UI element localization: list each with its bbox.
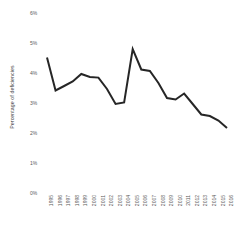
x-tick-2003: 2003 — [118, 195, 123, 206]
y-axis-title-text: Percentage of deficiencies — [9, 65, 15, 128]
x-tick-2000: 2000 — [92, 195, 97, 206]
x-tick-1999: 1999 — [83, 195, 88, 206]
x-tick-2001: 2001 — [101, 195, 106, 206]
x-tick-1998: 1998 — [75, 195, 80, 206]
x-tick-2011: 2011 — [186, 195, 191, 206]
x-tick-2014: 2014 — [212, 195, 217, 206]
x-axis-tick-labels: 1995199619971998199920002001200220032004… — [47, 195, 227, 226]
series-line-deficiencies — [47, 49, 227, 128]
x-tick-2006: 2006 — [143, 195, 148, 206]
x-tick-2005: 2005 — [135, 195, 140, 206]
x-tick-2015: 2015 — [221, 195, 226, 206]
data-series-svg — [47, 0, 227, 194]
plot-area — [47, 0, 227, 194]
x-tick-2009: 2009 — [169, 195, 174, 206]
x-tick-2012: 2012 — [195, 195, 200, 206]
x-tick-1997: 1997 — [66, 195, 71, 206]
x-tick-2010: 2010 — [178, 195, 183, 206]
x-tick-1996: 1996 — [58, 195, 63, 206]
x-tick-2013: 2013 — [203, 195, 208, 206]
line-chart: Percentage of deficiencies 0%1%2%3%4%5%6… — [0, 0, 243, 226]
x-tick-2016: 2016 — [229, 195, 234, 206]
x-tick-2004: 2004 — [126, 195, 131, 206]
y-axis-title: Percentage of deficiencies — [5, 0, 19, 194]
x-tick-2007: 2007 — [152, 195, 157, 206]
x-tick-1995: 1995 — [49, 195, 54, 206]
x-tick-2002: 2002 — [109, 195, 114, 206]
x-tick-2008: 2008 — [161, 195, 166, 206]
